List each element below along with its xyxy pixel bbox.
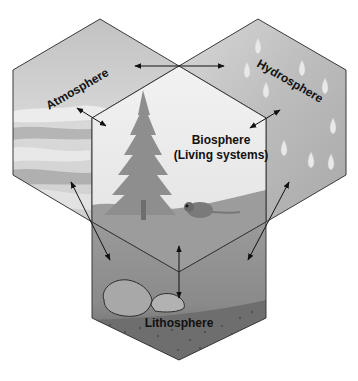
earth-spheres-diagram: Atmosphere Hydrosphere Biosphere (Living… — [0, 0, 358, 381]
lithosphere-label: Lithosphere — [145, 316, 214, 330]
truncated-caption — [0, 372, 358, 381]
biosphere-sublabel: (Living systems) — [174, 148, 269, 162]
biosphere-label: Biosphere — [192, 133, 251, 147]
